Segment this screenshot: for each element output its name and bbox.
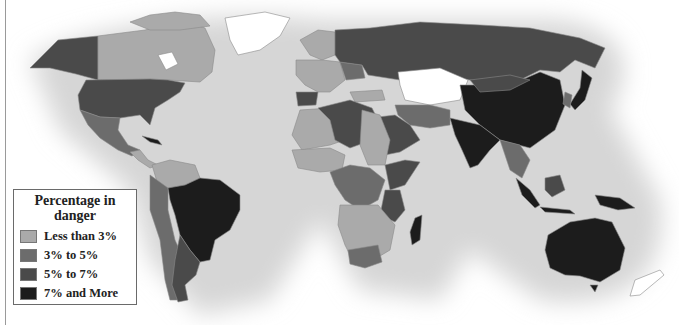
- legend-title-line1: Percentage in: [20, 193, 130, 208]
- legend-label: 5% to 7%: [44, 267, 98, 282]
- swatch-5-to-7: [20, 268, 37, 281]
- legend-title-line2: danger: [20, 208, 130, 223]
- legend-item-3-to-5: 3% to 5%: [20, 246, 130, 265]
- legend-label: Less than 3%: [44, 229, 117, 244]
- legend: Percentage in danger Less than 3% 3% to …: [13, 189, 137, 305]
- legend-item-5-to-7: 5% to 7%: [20, 265, 130, 284]
- legend-title: Percentage in danger: [20, 193, 130, 223]
- swatch-7-and-more: [20, 287, 37, 300]
- swatch-less-than-3: [20, 230, 37, 243]
- region-spain: [296, 92, 318, 106]
- legend-item-less-than-3: Less than 3%: [20, 227, 130, 246]
- region-west-africa: [292, 148, 345, 172]
- legend-item-7-and-more: 7% and More: [20, 284, 130, 303]
- swatch-3-to-5: [20, 249, 37, 262]
- region-turkey: [350, 90, 385, 102]
- legend-label: 3% to 5%: [44, 248, 98, 263]
- legend-label: 7% and More: [44, 286, 118, 301]
